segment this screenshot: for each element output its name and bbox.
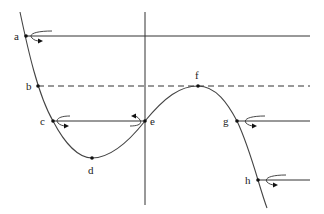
label-e: e (150, 115, 155, 127)
curl-arrow-c-icon (57, 116, 70, 129)
curl-arrow-a-icon (31, 31, 52, 44)
point-g (235, 119, 239, 123)
curl-arrow-g-icon (245, 116, 265, 129)
label-a: a (14, 30, 19, 42)
curl-arrow-h-icon (266, 175, 286, 188)
point-f (196, 84, 200, 88)
label-f: f (195, 69, 199, 81)
label-b: b (26, 80, 32, 92)
point-e (143, 119, 147, 123)
label-c: c (40, 115, 45, 127)
point-a (24, 34, 28, 38)
point-b (36, 84, 40, 88)
label-d: d (88, 164, 94, 176)
curve-diagram: a b c d e f g h (0, 0, 324, 214)
point-h (256, 178, 260, 182)
curve (20, 12, 267, 208)
point-c (51, 119, 55, 123)
point-d (90, 156, 94, 160)
curl-arrow-e-icon (130, 114, 141, 127)
label-g: g (223, 115, 229, 127)
label-h: h (245, 174, 251, 186)
